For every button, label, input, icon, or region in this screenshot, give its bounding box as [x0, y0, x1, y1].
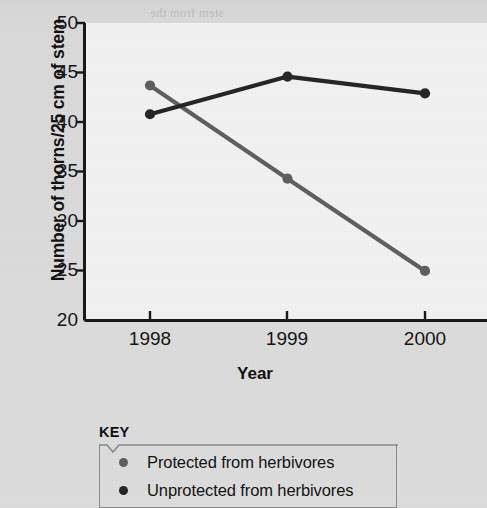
key-entry-unprotected: Unprotected from herbivores: [100, 476, 396, 504]
key-entry-protected: Protected from herbivores: [100, 448, 396, 476]
data-point: [282, 71, 292, 81]
axis-lines: [85, 23, 487, 321]
x-tick-marks: [150, 311, 425, 320]
chart-canvas: [0, 0, 487, 508]
thorn-count-line-chart: Number of thorns/25 cm of stem 50 45 40 …: [0, 0, 487, 508]
data-point: [145, 109, 155, 119]
key-entry-label: Protected from herbivores: [147, 453, 334, 472]
key-title: KEY: [99, 424, 129, 440]
data-point: [145, 80, 155, 90]
legend-marker-unprotected-icon: [119, 486, 128, 495]
data-point: [420, 88, 430, 98]
legend-marker-protected-icon: [119, 458, 128, 467]
key-legend-box: Protected from herbivores Unprotected fr…: [99, 444, 397, 508]
series-line: [150, 77, 425, 115]
key-entry-label: Unprotected from herbivores: [147, 481, 353, 500]
data-point: [420, 266, 430, 276]
series-protected-from-herbivores: [145, 80, 430, 276]
data-point: [282, 174, 292, 184]
